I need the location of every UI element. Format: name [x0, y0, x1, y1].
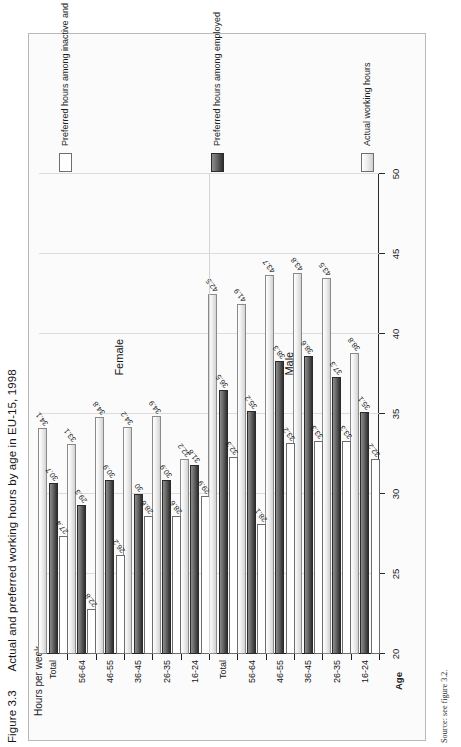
value-axis-tick-label: 25 — [390, 569, 401, 580]
bar — [190, 465, 199, 654]
bar — [116, 555, 125, 654]
category-label: 36-45 — [303, 660, 313, 700]
bar — [257, 524, 266, 654]
figure-source: Source: see figure 3.2. — [440, 670, 449, 743]
bar-value-label: 34.8 — [90, 400, 106, 417]
bar — [180, 459, 189, 654]
figure-title: Actual and preferred working hours by ag… — [6, 369, 18, 671]
bar-value-label: 30 — [133, 482, 145, 494]
group-separator — [209, 174, 210, 654]
category-label: 56-64 — [77, 660, 87, 700]
category-axis-tick — [124, 654, 125, 660]
value-axis-tick — [379, 413, 385, 414]
group-title-male: Male — [283, 352, 295, 376]
bar — [286, 443, 295, 654]
category-axis-label: Age — [393, 672, 404, 690]
bar — [38, 428, 47, 654]
bar-value-label: 42.5 — [204, 277, 220, 294]
bar-value-label: 43.7 — [260, 257, 276, 274]
bar-value-label: 33.1 — [62, 427, 78, 444]
category-label: 56-64 — [247, 660, 257, 700]
category-label: 26-35 — [162, 660, 172, 700]
category-axis-tick — [152, 654, 153, 660]
bar-value-label: 34.2 — [119, 409, 135, 426]
bar — [59, 536, 68, 654]
bar — [342, 441, 351, 654]
bar-value-label: 41.9 — [232, 286, 248, 303]
legend-swatch-icon — [59, 153, 72, 172]
bar — [275, 361, 284, 654]
bar-value-label: 43.5 — [317, 261, 333, 278]
value-axis-tick — [379, 253, 385, 254]
plot-area: 2025303540455016-2438.835.132.226-3543.5… — [39, 174, 379, 654]
figure-page: Figure 3.3 Actual and preferred working … — [0, 0, 461, 747]
bar — [77, 505, 86, 654]
category-label: 46-55 — [275, 660, 285, 700]
bar — [322, 278, 331, 654]
value-axis-tick — [379, 493, 385, 494]
legend-swatch-icon — [211, 153, 224, 172]
chart-legend: Actual working hoursPreferred hours amon… — [43, 40, 411, 172]
category-axis-tick — [181, 654, 182, 660]
category-label: 26-35 — [332, 660, 342, 700]
bar — [67, 444, 76, 654]
bar — [304, 356, 313, 654]
bar-value-label: 38.8 — [345, 336, 361, 353]
category-axis-tick — [266, 654, 267, 660]
category-axis-tick — [351, 654, 352, 660]
chart-frame: Hours per week 2025303540455016-2438.835… — [28, 33, 426, 741]
bar — [247, 411, 256, 654]
category-label: Total — [218, 660, 228, 700]
rotated-figure-canvas: Figure 3.3 Actual and preferred working … — [0, 0, 461, 747]
value-axis-label: Hours per week — [33, 646, 44, 716]
value-axis-tick-label: 35 — [390, 409, 401, 420]
category-axis-tick — [294, 654, 295, 660]
category-axis-tick — [322, 654, 323, 660]
value-axis-tick-label: 20 — [390, 649, 401, 660]
bar — [219, 390, 228, 654]
bar-value-label: 43.8 — [289, 256, 305, 273]
category-label: 16-24 — [190, 660, 200, 700]
value-axis-tick-label: 45 — [390, 249, 401, 260]
figure-caption: Figure 3.3 Actual and preferred working … — [6, 369, 18, 743]
bar — [134, 494, 143, 654]
legend-swatch-icon — [361, 153, 374, 172]
bar — [95, 417, 104, 654]
category-label: 16-24 — [360, 660, 370, 700]
bar — [265, 275, 274, 654]
bar — [293, 273, 302, 654]
value-axis-tick-label: 40 — [390, 329, 401, 340]
group-title-female: Female — [113, 339, 125, 376]
category-axis-tick — [67, 654, 68, 660]
category-label: 36-45 — [133, 660, 143, 700]
category-axis-tick — [209, 654, 210, 660]
category-axis-tick — [96, 654, 97, 660]
legend-label: Preferred hours among employed — [212, 12, 222, 146]
value-axis-tick — [379, 333, 385, 334]
legend-label: Preferred hours among inactive and unemp… — [60, 0, 70, 146]
bar — [314, 441, 323, 654]
bar — [49, 483, 58, 654]
category-label: Total — [48, 660, 58, 700]
category-label: 46-55 — [105, 660, 115, 700]
figure-number: Figure 3.3 — [6, 690, 18, 743]
value-axis-tick — [379, 173, 385, 174]
value-axis-tick-label: 30 — [390, 489, 401, 500]
bar — [87, 609, 96, 654]
bar — [105, 480, 114, 654]
bar — [152, 416, 161, 654]
bar — [172, 516, 181, 654]
bar — [237, 304, 246, 654]
bar — [332, 377, 341, 654]
bar — [371, 459, 380, 654]
category-axis-tick — [237, 654, 238, 660]
legend-label: Actual working hours — [362, 62, 372, 146]
bar — [229, 457, 238, 654]
category-axis-tick — [379, 654, 380, 660]
bar — [123, 427, 132, 654]
bar — [144, 516, 153, 654]
value-axis-tick — [379, 573, 385, 574]
